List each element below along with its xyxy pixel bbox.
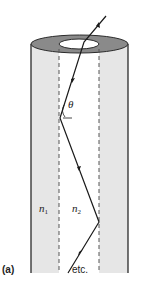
continuation-label: etc. [72, 265, 88, 275]
angle-theta-label: θ [68, 99, 73, 110]
core-index-subscript: 2 [78, 208, 82, 216]
core-end-face [59, 39, 99, 49]
optical-fiber-diagram [0, 0, 142, 293]
cladding-index-label: n1 [39, 203, 48, 216]
cladding-index-subscript: 1 [45, 208, 49, 216]
core-index-label: n2 [72, 203, 81, 216]
panel-label: (a) [2, 265, 14, 275]
core-body [59, 44, 99, 273]
